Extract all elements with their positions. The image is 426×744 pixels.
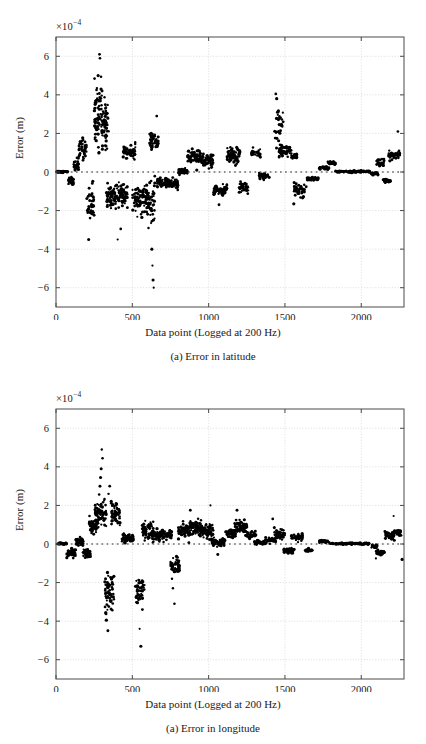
data-point bbox=[109, 204, 112, 207]
data-point bbox=[152, 541, 155, 544]
data-point bbox=[114, 516, 116, 518]
data-point bbox=[297, 541, 299, 543]
data-point bbox=[209, 504, 211, 506]
data-point bbox=[186, 170, 189, 173]
data-point bbox=[98, 53, 101, 56]
data-point bbox=[112, 595, 115, 598]
data-point bbox=[125, 157, 128, 160]
data-point bbox=[122, 155, 125, 158]
data-point bbox=[103, 112, 105, 114]
data-point bbox=[106, 591, 108, 593]
data-point bbox=[103, 135, 106, 138]
data-point bbox=[201, 162, 203, 164]
data-point bbox=[141, 597, 144, 600]
data-point bbox=[175, 186, 178, 189]
data-point bbox=[102, 120, 105, 123]
data-point bbox=[134, 141, 136, 143]
data-point bbox=[290, 537, 293, 540]
data-point bbox=[106, 130, 108, 132]
data-point bbox=[258, 154, 261, 157]
data-point bbox=[111, 520, 113, 522]
data-point bbox=[235, 519, 238, 522]
data-point bbox=[133, 153, 136, 156]
data-point bbox=[86, 548, 89, 551]
data-point bbox=[172, 557, 174, 559]
data-point bbox=[208, 527, 210, 529]
data-point bbox=[156, 186, 159, 189]
data-point bbox=[390, 533, 392, 535]
data-point bbox=[337, 170, 340, 173]
data-point bbox=[96, 87, 98, 89]
data-point bbox=[111, 588, 114, 591]
data-point bbox=[223, 544, 226, 547]
data-point bbox=[178, 565, 180, 567]
data-point bbox=[303, 189, 305, 191]
data-point bbox=[101, 448, 103, 450]
data-point bbox=[106, 182, 109, 185]
data-point bbox=[98, 128, 100, 130]
data-point bbox=[73, 165, 75, 167]
x-tick-label: 1500 bbox=[274, 312, 295, 320]
data-point bbox=[88, 187, 91, 190]
data-point bbox=[78, 155, 81, 158]
data-point bbox=[100, 104, 102, 106]
data-point bbox=[181, 527, 184, 530]
data-point bbox=[200, 519, 202, 521]
data-point bbox=[189, 509, 192, 512]
data-point bbox=[393, 515, 395, 517]
data-point bbox=[99, 118, 102, 121]
data-point bbox=[239, 180, 242, 183]
data-point bbox=[182, 520, 185, 523]
data-point bbox=[374, 545, 377, 548]
data-point bbox=[228, 150, 231, 153]
data-point bbox=[124, 537, 126, 539]
data-point bbox=[139, 628, 141, 630]
data-point bbox=[94, 101, 97, 104]
data-point bbox=[369, 172, 371, 174]
y-tick-label: 6 bbox=[44, 51, 49, 62]
data-point bbox=[70, 548, 72, 550]
data-point bbox=[71, 553, 74, 556]
data-point bbox=[334, 542, 337, 545]
data-point bbox=[150, 138, 153, 141]
data-point bbox=[163, 182, 165, 184]
data-point bbox=[288, 547, 291, 550]
data-point bbox=[299, 536, 302, 539]
data-point bbox=[136, 590, 139, 593]
data-point bbox=[202, 536, 204, 538]
data-point bbox=[260, 174, 262, 176]
data-point bbox=[209, 155, 212, 158]
data-point bbox=[78, 539, 81, 542]
y-tick-label: −2 bbox=[38, 577, 49, 588]
data-point bbox=[236, 530, 239, 533]
data-point bbox=[98, 518, 101, 521]
data-point bbox=[175, 555, 178, 558]
data-point bbox=[165, 538, 168, 541]
data-point bbox=[345, 542, 348, 545]
data-point bbox=[382, 178, 385, 181]
data-point bbox=[158, 179, 161, 182]
data-point bbox=[378, 164, 381, 167]
data-point bbox=[151, 192, 154, 195]
data-point bbox=[121, 204, 124, 207]
data-point bbox=[152, 190, 154, 192]
data-point bbox=[102, 110, 105, 113]
data-point bbox=[189, 159, 192, 162]
data-point bbox=[144, 185, 146, 187]
data-point bbox=[105, 619, 108, 622]
data-point bbox=[113, 505, 116, 508]
y-tick-label: 4 bbox=[44, 89, 50, 100]
x-tick-label: 0 bbox=[53, 312, 58, 320]
data-point bbox=[280, 124, 283, 127]
data-point bbox=[89, 529, 91, 531]
data-point bbox=[242, 189, 245, 192]
data-point bbox=[177, 569, 180, 572]
data-point bbox=[250, 151, 252, 153]
data-point bbox=[170, 568, 173, 571]
data-point bbox=[131, 189, 133, 191]
data-point bbox=[253, 532, 256, 535]
data-point bbox=[348, 542, 350, 544]
data-point bbox=[94, 528, 97, 531]
data-point bbox=[137, 200, 139, 202]
data-point bbox=[80, 146, 83, 149]
